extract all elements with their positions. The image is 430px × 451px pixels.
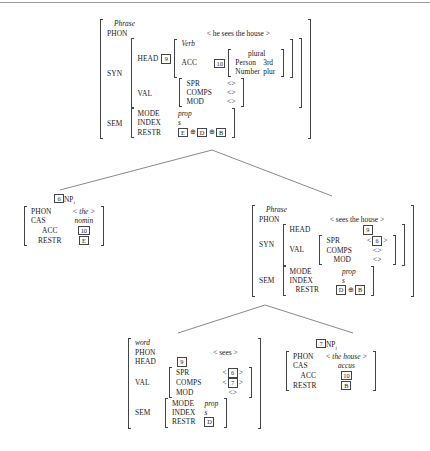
- verb-mod-row: MOD <>: [176, 388, 246, 397]
- vp-mod-value: <>: [355, 255, 390, 264]
- right-np-acc-tag: 10: [341, 371, 352, 380]
- avm-verb-val: SPR <6> COMPS <7> MOD <>: [169, 367, 252, 398]
- left-np-phon-row: PHON < the >: [31, 207, 98, 216]
- verb-comps-row: COMPS <7>: [176, 378, 246, 388]
- root-comps-attr: COMPS: [186, 88, 215, 97]
- edge-root-to-vp: [212, 150, 332, 196]
- verb-val-row: VAL SPR <6> COMPS <7>: [135, 367, 255, 398]
- verb-sem-attr: SEM: [135, 398, 159, 428]
- root-mod-value: <>: [215, 97, 238, 106]
- vp-spr-row: SPR <6>: [326, 236, 390, 246]
- root-mod-row: MOD <>: [186, 97, 238, 106]
- vp-sem-attr: SEM: [259, 266, 283, 296]
- root-mode-value: prop: [164, 109, 229, 118]
- node-left-np[interactable]: 6NPi PHON < the > CAS nomin ACC 10 RESTR: [24, 188, 104, 250]
- left-np-phon-value: < the >: [65, 207, 99, 216]
- right-np-acc-attr: ACC: [293, 370, 320, 380]
- root-mod-attr: MOD: [186, 97, 215, 106]
- root-person-row: Person 3rd: [235, 58, 278, 67]
- vp-mod-attr: MOD: [326, 255, 355, 264]
- vp-index-value: s: [322, 276, 368, 285]
- left-np-tag: 6: [54, 194, 64, 203]
- avm-verb-word: word PHON < sees > HEAD 9 VAL: [128, 338, 261, 429]
- append-operator-icon: ⊕: [188, 128, 197, 136]
- verb-mod-value: <>: [205, 388, 246, 397]
- root-restr-tag-1: E: [178, 128, 188, 137]
- root-head-row: HEAD 9 Verb ACC: [138, 39, 297, 79]
- list-close-bracket: >: [239, 368, 243, 377]
- root-spr-row: SPR <>: [186, 79, 238, 88]
- list-open-bracket: <: [223, 378, 227, 387]
- verb-phon-attr: PHON: [135, 348, 159, 357]
- root-val-row: VAL SPR <>: [138, 78, 297, 107]
- root-index-value: s: [164, 118, 229, 127]
- verb-word-type-label: word: [135, 339, 255, 348]
- right-np-phon-value: < the house >: [320, 352, 371, 361]
- root-restr-tag-3: B: [216, 128, 226, 137]
- vp-mode-attr: MODE: [290, 267, 323, 276]
- node-verb-word[interactable]: word PHON < sees > HEAD 9 VAL: [128, 331, 261, 429]
- verb-phon-row: PHON < sees >: [135, 348, 255, 357]
- edge-vp-to-verb: [178, 305, 265, 333]
- verb-mode-row: MODE prop: [172, 399, 221, 408]
- left-np-index-sub: i: [73, 200, 74, 205]
- root-agr-type: plural: [235, 50, 278, 59]
- root-spr-value: <>: [215, 79, 238, 88]
- vp-spr-tag: 6: [372, 236, 382, 245]
- root-number-row: Number plur: [235, 67, 278, 76]
- vp-mode-value: prop: [322, 267, 368, 276]
- list-close-bracket: >: [239, 378, 243, 387]
- root-restr-row: RESTR E⊕D⊕B: [138, 127, 230, 137]
- verb-index-row: INDEX s: [172, 408, 221, 417]
- vp-restr-attr: RESTR: [290, 285, 323, 295]
- right-np-label: NPj: [326, 340, 337, 349]
- left-np-label: NPi: [64, 195, 75, 204]
- node-right-np[interactable]: 7NPj PHON < the house > CAS accus ACC 10…: [286, 333, 376, 395]
- right-np-cas-row: CAS accus: [293, 361, 370, 370]
- append-operator-icon: ⊕: [346, 286, 355, 294]
- left-np-restr-row: RESTR E: [31, 235, 98, 245]
- vp-head-row: HEAD 9: [290, 225, 400, 235]
- edge-vp-to-right-np: [265, 305, 353, 333]
- root-acc-tag: 10: [214, 59, 225, 68]
- root-number-attr: Number: [235, 67, 263, 76]
- root-head-type: Verb: [181, 40, 287, 49]
- root-person-value: 3rd: [263, 58, 278, 67]
- root-person-attr: Person: [235, 58, 263, 67]
- right-np-phon-attr: PHON: [293, 352, 320, 361]
- root-type-label: Phrase: [107, 20, 305, 29]
- vp-index-attr: INDEX: [290, 276, 323, 285]
- avm-left-np: PHON < the > CAS nomin ACC 10 RESTR E: [24, 206, 104, 246]
- verb-spr-attr: SPR: [176, 368, 205, 378]
- right-np-acc-row: ACC 10: [293, 370, 370, 380]
- node-vp-phrase[interactable]: Phrase PHON < sees the house > SYN HEAD: [252, 198, 414, 297]
- avm-root-val: SPR <> COMPS <>: [179, 78, 244, 107]
- verb-index-value: s: [198, 408, 221, 417]
- avm-verb-sem: MODE prop INDEX s RESTR D: [165, 398, 227, 428]
- vp-index-row: INDEX s: [290, 276, 369, 285]
- avm-root-sem: MODE prop INDEX s RESTR: [131, 108, 236, 138]
- verb-phon-value: < sees >: [159, 348, 255, 357]
- verb-comps-attr: COMPS: [176, 378, 205, 388]
- left-np-acc-tag: 10: [78, 226, 89, 235]
- list-open-bracket: <: [367, 236, 371, 245]
- vp-mod-row: MOD <>: [326, 255, 390, 264]
- vp-spr-attr: SPR: [326, 236, 355, 246]
- left-np-header: 6NPi: [24, 188, 104, 206]
- left-np-cas-row: CAS nomin: [31, 216, 98, 225]
- verb-val-attr: VAL: [135, 367, 159, 398]
- root-syn-row: SYN HEAD 9: [107, 38, 305, 109]
- vp-comps-row: COMPS <>: [326, 246, 390, 255]
- node-root-phrase[interactable]: Phrase PHON < he sees the house > SYN HE…: [100, 12, 311, 139]
- left-np-restr-tag: E: [79, 236, 89, 245]
- root-acc-row: ACC 10 plural: [181, 49, 287, 78]
- feature-structure-tree-diagram: Phrase PHON < he sees the house > SYN HE…: [0, 0, 430, 451]
- left-np-phon-attr: PHON: [31, 207, 65, 216]
- verb-head-attr: HEAD: [135, 357, 159, 367]
- right-np-cas-attr: CAS: [293, 361, 320, 370]
- root-head-attr: HEAD: [138, 39, 162, 79]
- verb-head-tag: 9: [177, 357, 187, 366]
- right-np-restr-row: RESTR B: [293, 380, 370, 390]
- root-mode-attr: MODE: [138, 109, 165, 118]
- root-syn-attr: SYN: [107, 38, 131, 109]
